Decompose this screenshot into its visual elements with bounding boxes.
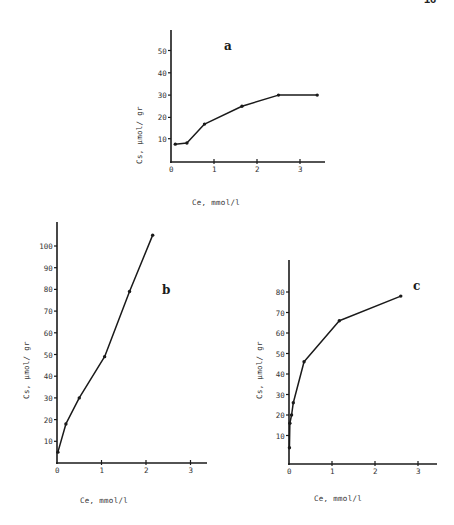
x-tick-label: 1 <box>212 165 217 174</box>
y-tick-label: 40 <box>158 69 168 78</box>
data-point <box>240 105 243 108</box>
x-tick-label: 1 <box>330 467 335 476</box>
x-tick-label: 1 <box>100 466 105 475</box>
x-axis-label: Ce, mmol/l <box>314 494 362 503</box>
y-tick-label: 50 <box>276 350 286 359</box>
data-point <box>288 446 291 449</box>
y-tick-label: 30 <box>276 391 286 400</box>
y-tick-label: 50 <box>44 351 54 360</box>
y-tick-label: 50 <box>158 47 168 56</box>
y-tick-label: 80 <box>276 288 286 297</box>
x-tick-label: 2 <box>373 467 378 476</box>
y-tick-label: 90 <box>44 264 54 273</box>
series-line <box>58 235 153 452</box>
x-tick-label: 2 <box>255 165 260 174</box>
y-tick-label: 70 <box>44 307 54 316</box>
y-tick-label: 80 <box>44 285 54 294</box>
panel-label: b <box>162 283 170 297</box>
y-axis-label: Cs, µmol/ gr <box>135 106 144 164</box>
data-point <box>78 396 81 399</box>
x-axis-label: Ce, mmol/l <box>192 198 240 207</box>
data-point <box>151 233 154 236</box>
y-tick-label: 10 <box>158 135 168 144</box>
y-tick-label: 20 <box>158 113 168 122</box>
x-axis-label: Ce, mmol/l <box>80 496 128 505</box>
y-tick-label: 30 <box>44 394 54 403</box>
data-point <box>56 450 59 453</box>
y-tick-label: 30 <box>158 91 168 100</box>
x-tick-label: 3 <box>189 466 194 475</box>
chart-b: 0123102030405060708090100bCs, µmol/ grCe… <box>22 222 207 505</box>
data-point <box>399 294 402 297</box>
data-point <box>203 122 206 125</box>
y-tick-label: 20 <box>44 416 54 425</box>
x-tick-label: 2 <box>144 466 149 475</box>
x-tick-label: 0 <box>169 165 174 174</box>
data-point <box>277 93 280 96</box>
y-tick-label: 10 <box>276 432 286 441</box>
y-tick-label: 60 <box>44 329 54 338</box>
data-point <box>128 290 131 293</box>
y-tick-label: 40 <box>276 370 286 379</box>
data-point <box>290 413 293 416</box>
figure: 01231020304050aCs, µmol/ grCe, mmol/l012… <box>0 0 454 525</box>
y-tick-label: 70 <box>276 309 286 318</box>
y-tick-label: 10 <box>44 437 54 446</box>
series-line <box>289 296 400 448</box>
data-point <box>103 355 106 358</box>
y-tick-label: 20 <box>276 411 286 420</box>
panel-label: a <box>224 39 232 53</box>
data-point <box>185 141 188 144</box>
panel-label: c <box>413 279 420 293</box>
data-point <box>64 422 67 425</box>
x-tick-label: 3 <box>298 165 303 174</box>
data-point <box>302 360 305 363</box>
y-tick-label: 100 <box>39 242 53 251</box>
x-tick-label: 0 <box>55 466 60 475</box>
y-tick-label: 40 <box>44 372 54 381</box>
data-point <box>288 422 291 425</box>
series-line <box>175 95 317 144</box>
chart-c: 01231020304050607080cCs, µmol/ grCe, mmo… <box>255 260 437 503</box>
data-point <box>316 93 319 96</box>
chart-a: 01231020304050aCs, µmol/ grCe, mmol/l <box>135 30 325 207</box>
data-point <box>338 319 341 322</box>
data-point <box>174 142 177 145</box>
x-tick-label: 0 <box>287 467 292 476</box>
x-tick-label: 3 <box>416 467 421 476</box>
y-axis-label: Cs, µmol/ gr <box>22 341 31 399</box>
y-axis-label: Cs, µmol/ gr <box>255 341 264 399</box>
data-point <box>292 401 295 404</box>
y-tick-label: 60 <box>276 329 286 338</box>
